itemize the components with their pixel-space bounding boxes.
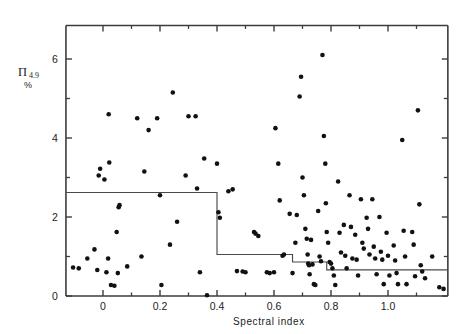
data-point xyxy=(317,254,322,259)
data-point xyxy=(171,90,176,95)
data-point xyxy=(324,201,329,206)
data-point xyxy=(359,197,364,202)
data-point xyxy=(310,262,315,267)
step-envelope-line xyxy=(66,193,448,270)
data-point xyxy=(420,269,425,274)
data-point xyxy=(404,282,409,287)
data-point xyxy=(374,272,379,277)
data-point xyxy=(339,250,344,255)
data-point xyxy=(300,175,305,180)
data-point xyxy=(319,259,324,264)
data-point xyxy=(175,219,180,224)
x-tick-label: 0.4 xyxy=(210,300,225,312)
data-point xyxy=(71,265,76,270)
data-point xyxy=(297,94,302,99)
data-point xyxy=(367,252,372,257)
x-tick-label: 0.2 xyxy=(153,300,168,312)
data-point xyxy=(299,74,304,79)
data-point xyxy=(193,114,198,119)
data-point xyxy=(373,256,378,261)
data-point xyxy=(183,173,188,178)
x-tick-label: 0.8 xyxy=(324,300,339,312)
data-point xyxy=(330,266,335,271)
data-point xyxy=(333,283,338,288)
data-point xyxy=(243,270,248,275)
data-point xyxy=(235,269,240,274)
data-point xyxy=(437,285,442,290)
data-point xyxy=(323,161,328,166)
data-point xyxy=(76,266,81,271)
data-point xyxy=(85,256,90,261)
data-point xyxy=(344,266,349,271)
data-point xyxy=(202,156,207,161)
data-point xyxy=(215,161,220,166)
data-point xyxy=(401,229,406,234)
data-point xyxy=(267,271,272,276)
y-tick-label: 0 xyxy=(52,290,58,302)
data-point xyxy=(107,160,112,165)
data-point xyxy=(104,270,109,275)
data-point xyxy=(353,232,358,237)
data-point xyxy=(304,236,309,241)
data-point xyxy=(230,187,235,192)
y-axis-title: Π4.9 xyxy=(18,65,39,80)
data-point xyxy=(350,256,355,261)
data-point xyxy=(410,230,415,235)
data-point xyxy=(277,198,282,203)
data-point xyxy=(366,227,371,232)
y-tick-label: 4 xyxy=(52,132,58,144)
data-point xyxy=(396,282,401,287)
data-point xyxy=(218,215,223,220)
data-point xyxy=(106,112,111,117)
data-point xyxy=(155,116,160,121)
data-point xyxy=(303,227,308,232)
data-point xyxy=(125,264,130,269)
data-point xyxy=(417,202,422,207)
plot-canvas: 00.20.40.60.81.00246Spectral indexΠ4.9% xyxy=(0,0,464,334)
figure-scatter-plot: 00.20.40.60.81.00246Spectral indexΠ4.9% xyxy=(0,0,464,334)
x-tick-label: 1.0 xyxy=(381,300,396,312)
data-point xyxy=(114,230,119,235)
data-point xyxy=(371,244,376,249)
data-point xyxy=(146,128,151,133)
data-point xyxy=(332,273,337,278)
data-point xyxy=(282,252,287,257)
data-point xyxy=(320,53,325,58)
data-point xyxy=(198,270,203,275)
data-point xyxy=(337,231,342,236)
data-point xyxy=(384,231,389,236)
data-point xyxy=(394,271,399,276)
data-point xyxy=(307,272,312,277)
data-point xyxy=(106,256,111,261)
data-point xyxy=(441,287,446,292)
data-point xyxy=(293,240,298,245)
data-point xyxy=(98,167,103,172)
data-point xyxy=(117,203,122,208)
data-point xyxy=(96,173,101,178)
data-point xyxy=(377,215,382,220)
data-point xyxy=(379,249,384,254)
data-point xyxy=(360,240,365,245)
data-point xyxy=(354,257,359,262)
data-point xyxy=(112,283,117,288)
data-point xyxy=(324,230,329,235)
data-point xyxy=(418,263,423,268)
data-point xyxy=(287,212,292,217)
scatter-points xyxy=(71,53,446,298)
data-point xyxy=(302,193,307,198)
data-point xyxy=(273,126,278,131)
data-point xyxy=(400,138,405,143)
data-point xyxy=(387,273,392,278)
data-point xyxy=(226,189,231,194)
data-point xyxy=(393,258,398,263)
data-point xyxy=(276,161,281,166)
data-point xyxy=(343,253,348,258)
data-point xyxy=(316,209,321,214)
data-point xyxy=(142,169,147,174)
data-point xyxy=(391,243,396,248)
data-point xyxy=(349,225,354,230)
data-point xyxy=(403,254,408,259)
data-point xyxy=(272,270,277,275)
data-point xyxy=(430,254,435,259)
figure-caption xyxy=(14,324,314,334)
